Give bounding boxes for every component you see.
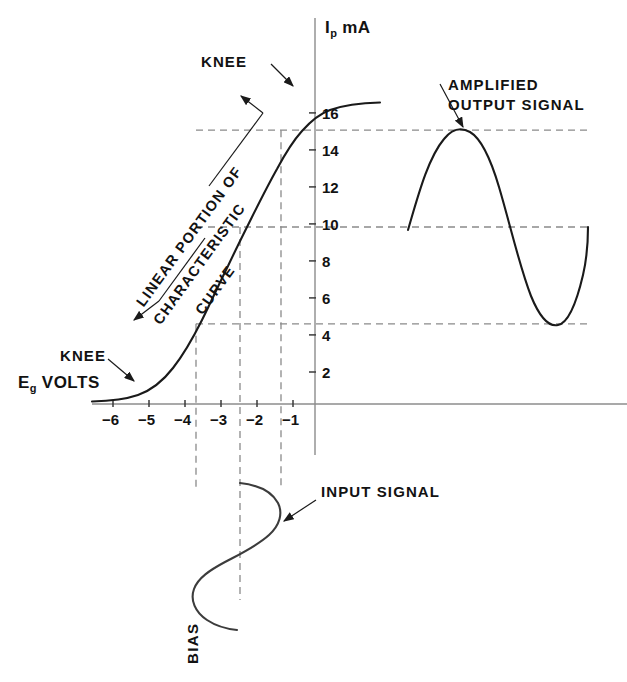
x-axis-unit-text: VOLTS [42,373,100,392]
linear-span-upper-arm [241,96,263,113]
amplified-output-label-line1: AMPLIFIED [448,76,539,93]
x-tick-label-minus2: −2 [246,411,263,428]
y-tick-label-16: 16 [322,105,339,122]
knee-upper-label: KNEE [201,53,247,70]
x-tick-label-minus5: −5 [138,411,155,428]
y-tick-label-10: 10 [322,216,339,233]
callout-leader-lines [108,64,463,521]
axis-lines [92,18,627,455]
input-signal-label: INPUT SIGNAL [321,483,440,500]
x-axis-symbol: E [18,373,30,392]
y-tick-label-2: 2 [322,364,330,381]
y-tick-label-8: 8 [322,253,330,270]
x-axis-title: Eg VOLTS [18,373,100,394]
y-tick-label-6: 6 [322,290,330,307]
dashed-reference-lines [196,130,588,600]
input-signal-leader [284,500,316,521]
x-tick-label-minus1: −1 [282,411,299,428]
input-signal-path [193,483,281,630]
y-tick-label-14: 14 [322,142,339,159]
y-tick-label-12: 12 [322,179,339,196]
y-tick-label-4: 4 [322,327,330,344]
knee-upper-leader [271,64,293,86]
x-tick-label-minus4: −4 [174,411,191,428]
x-tick-label-minus3: −3 [210,411,227,428]
x-tick-label-minus6: −6 [102,411,119,428]
characteristic-curve-figure: 2 4 6 8 10 12 14 16 −6 −5 −4 −3 −2 −1 Ip… [0,0,627,682]
y-axis-unit-text: mA [342,18,370,37]
knee-lower-label: KNEE [60,347,106,364]
knee-lower-leader [108,359,134,381]
amplified-output-label-line2: OUTPUT SIGNAL [448,96,585,113]
x-axis-subscript: g [30,382,37,394]
bias-label: BIAS [184,623,201,664]
y-axis-title: Ip mA [325,18,371,39]
y-axis-subscript: p [330,27,337,39]
